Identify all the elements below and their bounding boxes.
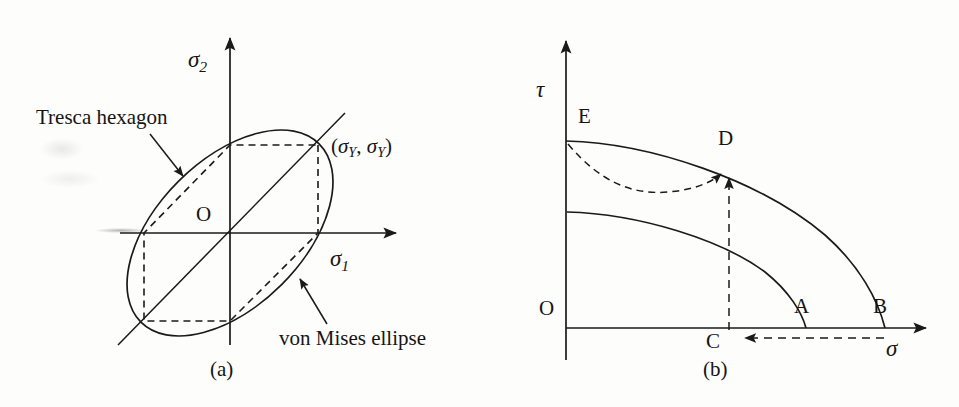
axis-label-sigma-panel-b: σ bbox=[886, 337, 897, 360]
axis-label-sigma1-symbol: σ bbox=[330, 246, 341, 271]
yield-point-paren-close: ) bbox=[385, 134, 392, 158]
axis-label-sigma2: σ2 bbox=[188, 48, 207, 71]
axis-label-sigma2-symbol: σ bbox=[188, 47, 199, 72]
point-label-d: D bbox=[718, 128, 733, 149]
panel-a-graphic bbox=[89, 38, 396, 374]
panel-b-caption: (b) bbox=[703, 359, 728, 380]
yield-point-sigma-2: σ bbox=[367, 134, 377, 158]
yield-point-coordinate-label: (σY, σY) bbox=[331, 136, 392, 157]
hydrostatic-line bbox=[118, 113, 345, 345]
axis-label-sigma2-subscript: 2 bbox=[199, 58, 207, 75]
origin-label-panel-b: O bbox=[539, 298, 554, 319]
outer-yield-locus bbox=[566, 141, 885, 328]
point-label-c: C bbox=[706, 331, 720, 352]
tresca-hexagon-label: Tresca hexagon bbox=[36, 107, 168, 128]
yield-point-paren-open: ( bbox=[331, 134, 338, 158]
yield-point-comma: , bbox=[356, 134, 367, 158]
axis-label-tau: τ bbox=[536, 78, 544, 101]
inner-yield-locus bbox=[567, 212, 806, 328]
yield-point-subscript-2: Y bbox=[377, 144, 385, 160]
axis-label-sigma1: σ1 bbox=[330, 247, 349, 270]
figure-canvas bbox=[0, 0, 959, 407]
von-mises-ellipse-label: von Mises ellipse bbox=[279, 328, 426, 349]
yield-point-subscript-1: Y bbox=[348, 144, 356, 160]
axis-label-sigma1-subscript: 1 bbox=[341, 257, 349, 274]
origin-label-panel-a: O bbox=[196, 204, 211, 225]
yield-point-sigma-1: σ bbox=[338, 134, 348, 158]
panel-a-caption: (a) bbox=[210, 359, 233, 380]
tresca-leader-arrow bbox=[150, 134, 183, 176]
panel-b-graphic bbox=[566, 41, 926, 360]
point-label-b: B bbox=[873, 296, 887, 317]
point-label-e: E bbox=[578, 106, 591, 127]
point-label-a: A bbox=[794, 296, 809, 317]
von-mises-leader-arrow bbox=[300, 279, 327, 324]
figure-root: σ2 σ1 O Tresca hexagon von Mises ellipse… bbox=[0, 0, 959, 407]
